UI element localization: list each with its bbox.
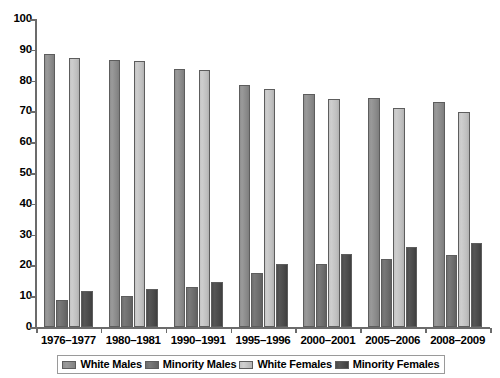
bar — [211, 282, 223, 327]
bar — [381, 259, 393, 327]
bar — [276, 264, 288, 327]
bar — [458, 112, 470, 327]
legend-item[interactable]: Minority Males — [145, 359, 237, 370]
x-tick-mark — [295, 328, 297, 333]
x-tick-mark — [166, 328, 168, 333]
legend-label: Minority Females — [353, 359, 440, 370]
bar-group — [44, 19, 93, 327]
y-axis-tick-labels: 0102030405060708090100 — [0, 12, 32, 328]
bar — [134, 61, 146, 327]
bar-group — [109, 19, 158, 327]
legend-item[interactable]: Minority Females — [335, 359, 440, 370]
bar — [109, 60, 121, 327]
x-tick-mark — [231, 328, 233, 333]
legend-label: White Males — [80, 359, 141, 370]
x-tick-label: 1995–1996 — [236, 334, 291, 348]
x-tick-label: 2008–2009 — [430, 334, 485, 348]
x-tick-mark — [36, 328, 38, 333]
bar — [239, 85, 251, 327]
bar — [341, 254, 353, 327]
legend-swatch-icon — [335, 361, 349, 369]
legend-swatch-icon — [239, 361, 253, 369]
bar — [368, 98, 380, 327]
bar — [446, 255, 458, 327]
x-tick-label: 1980–1981 — [106, 334, 161, 348]
bar — [146, 289, 158, 327]
legend-item[interactable]: White Males — [62, 359, 141, 370]
legend-item[interactable]: White Females — [239, 359, 331, 370]
bar — [44, 54, 56, 327]
legend-swatch-icon — [145, 361, 159, 369]
bar — [199, 70, 211, 327]
bars-container — [36, 19, 490, 327]
x-axis-tick-labels: 1976–19771980–19811990–19911995–19962000… — [36, 334, 490, 352]
bar-group — [239, 19, 288, 327]
bar-group — [303, 19, 352, 327]
x-tick-label: 1990–1991 — [171, 334, 226, 348]
x-tick-label: 2005–2006 — [365, 334, 420, 348]
bar-group — [368, 19, 417, 327]
bar — [81, 291, 93, 327]
bar — [121, 296, 133, 327]
bar — [471, 243, 483, 327]
bar — [69, 58, 81, 327]
legend-label: Minority Males — [163, 359, 237, 370]
x-axis-line — [35, 327, 490, 329]
plot-area: 0102030405060708090100 1976–19771980–198… — [0, 0, 500, 340]
bar — [316, 264, 328, 327]
bar — [251, 273, 263, 327]
bar-chart: 0102030405060708090100 1976–19771980–198… — [0, 0, 500, 378]
x-tick-label: 1976–1977 — [41, 334, 96, 348]
bar-group — [174, 19, 223, 327]
bar — [328, 99, 340, 327]
x-tick-mark — [360, 328, 362, 333]
x-tick-mark — [425, 328, 427, 333]
x-tick-label: 2000–2001 — [300, 334, 355, 348]
bar — [303, 94, 315, 327]
bar — [56, 300, 68, 327]
bar — [406, 247, 418, 327]
bar — [174, 69, 186, 327]
x-tick-mark — [101, 328, 103, 333]
x-tick-mark — [490, 328, 492, 333]
bar-group — [433, 19, 482, 327]
chart-legend: White MalesMinority MalesWhite FemalesMi… — [57, 355, 445, 374]
legend-label: White Females — [257, 359, 331, 370]
legend-swatch-icon — [62, 361, 76, 369]
bar — [264, 89, 276, 327]
bar — [433, 102, 445, 327]
bar — [393, 108, 405, 327]
bar — [186, 287, 198, 327]
